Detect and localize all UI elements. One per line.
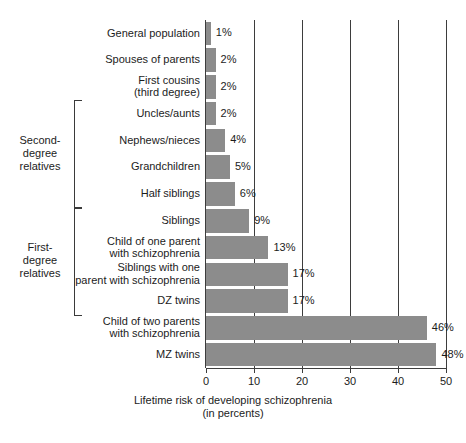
x-tick-0 — [206, 368, 207, 373]
bar-value-label: 2% — [221, 81, 237, 92]
x-tick-label: 30 — [335, 376, 365, 387]
x-tick-label: 10 — [239, 376, 269, 387]
bar-value-label: 5% — [235, 161, 251, 172]
bar-value-label: 17% — [293, 268, 315, 279]
bar — [206, 48, 216, 72]
bar-value-label: 48% — [441, 349, 463, 360]
bar — [206, 343, 436, 367]
bar-value-label: 9% — [254, 215, 270, 226]
x-tick-label: 0 — [191, 376, 221, 387]
bar — [206, 155, 230, 179]
x-tick-label: 50 — [431, 376, 461, 387]
bar — [206, 209, 249, 233]
x-axis-title: Lifetime risk of developing schizophreni… — [0, 394, 466, 420]
bar-value-label: 13% — [273, 242, 295, 253]
category-label: General population — [10, 27, 200, 40]
category-label: Uncles/aunts — [10, 107, 200, 120]
bar-value-label: 2% — [221, 108, 237, 119]
category-label: Siblings — [10, 214, 200, 227]
category-label: Spouses of parents — [10, 53, 200, 66]
category-label: Nephews/nieces — [10, 134, 200, 147]
category-label: Half siblings — [10, 187, 200, 200]
category-label: MZ twins — [10, 348, 200, 361]
x-tick-label: 40 — [383, 376, 413, 387]
bar-value-label: 2% — [221, 54, 237, 65]
gridline-50 — [446, 20, 447, 368]
bar — [206, 129, 225, 153]
bar-value-label: 46% — [432, 322, 454, 333]
x-tick-40 — [398, 368, 399, 373]
bar — [206, 289, 288, 313]
schizophrenia-risk-bar-chart: Second- degree relativesFirst- degree re… — [0, 0, 466, 443]
bar — [206, 182, 235, 206]
category-label: Grandchildren — [10, 160, 200, 173]
x-tick-10 — [254, 368, 255, 373]
x-tick-50 — [446, 368, 447, 373]
x-tick-30 — [350, 368, 351, 373]
bar-value-label: 4% — [230, 134, 246, 145]
bar — [206, 22, 211, 46]
category-label: First cousins (third degree) — [10, 74, 200, 99]
bar — [206, 263, 288, 287]
category-label: Child of two parents with schizophrenia — [10, 315, 200, 340]
category-label: Siblings with one parent with schizophre… — [10, 261, 200, 286]
category-label: DZ twins — [10, 294, 200, 307]
bar-value-label: 6% — [240, 188, 256, 199]
bar — [206, 236, 268, 260]
bar-value-label: 1% — [216, 27, 232, 38]
x-axis-line — [206, 368, 446, 369]
x-tick-label: 20 — [287, 376, 317, 387]
bar — [206, 102, 216, 126]
x-tick-20 — [302, 368, 303, 373]
bar-value-label: 17% — [293, 295, 315, 306]
bar — [206, 316, 427, 340]
bar — [206, 75, 216, 99]
category-label: Child of one parent with schizophrenia — [10, 235, 200, 260]
